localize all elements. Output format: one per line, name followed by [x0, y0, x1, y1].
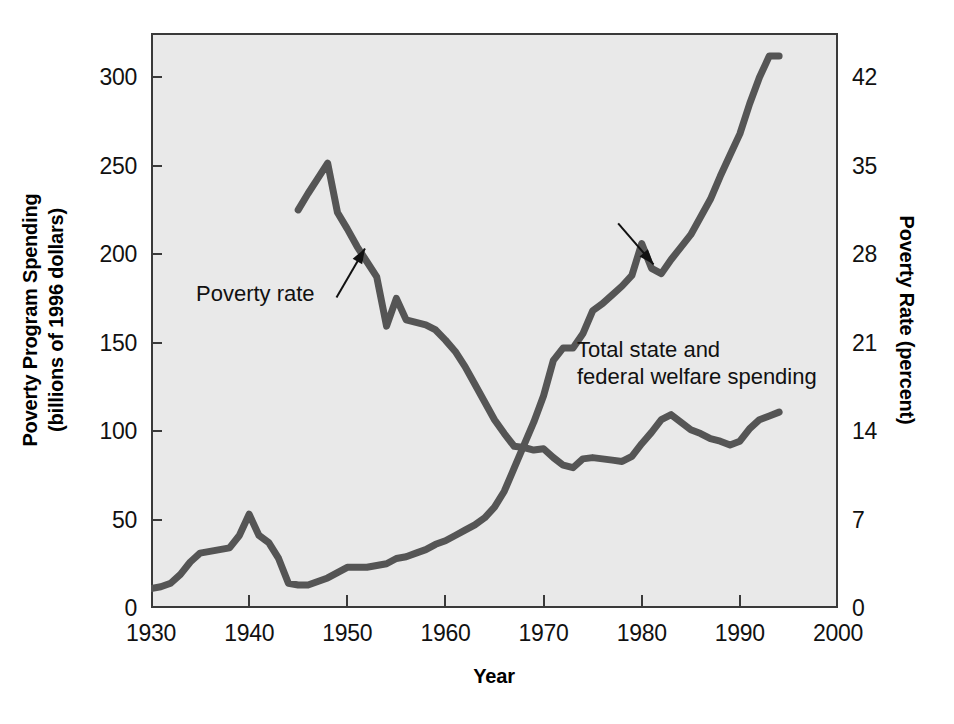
chart-plot-lines [151, 33, 838, 608]
y-left-tick-label-150: 150 [100, 329, 137, 356]
y-left-tick-label-200: 200 [100, 241, 137, 268]
y-left-tick-label-100: 100 [100, 418, 137, 445]
y-left-tick-label-50: 50 [112, 506, 137, 533]
y-left-tick-label-300: 300 [100, 64, 137, 91]
x-tick-mark-1990 [739, 595, 741, 606]
x-tick-mark-1950 [346, 595, 348, 606]
y-axis-left-title-line2: (billions of 1996 dollars) [44, 193, 70, 446]
y-left-tick-label-0: 0 [125, 595, 138, 622]
y-left-tick-mark-200 [151, 253, 162, 255]
y-left-tick-mark-300 [151, 76, 162, 78]
annotation-total-welfare-spending: Total state and federal welfare spending [577, 337, 817, 391]
x-tick-label-1960: 1960 [420, 620, 470, 647]
y-left-tick-label-250: 250 [100, 152, 137, 179]
y-right-tick-label-7: 7 [852, 506, 865, 533]
annotation-total-welfare-spending-line2: federal welfare spending [577, 364, 817, 391]
x-axis-title: Year [473, 665, 514, 688]
y-right-tick-label-0: 0 [852, 595, 865, 622]
y-left-tick-mark-150 [151, 342, 162, 344]
x-tick-mark-1940 [248, 595, 250, 606]
y-right-tick-label-28: 28 [852, 241, 877, 268]
x-tick-label-1980: 1980 [617, 620, 667, 647]
y-right-tick-label-35: 35 [852, 152, 877, 179]
chart-figure: 1930194019501960197019801990200005010015… [0, 0, 954, 724]
x-tick-label-1930: 1930 [126, 620, 176, 647]
y-right-tick-label-42: 42 [852, 64, 877, 91]
y-left-tick-mark-250 [151, 165, 162, 167]
x-tick-mark-1960 [444, 595, 446, 606]
y-right-tick-label-14: 14 [852, 418, 877, 445]
x-tick-label-1950: 1950 [322, 620, 372, 647]
x-tick-label-1990: 1990 [715, 620, 765, 647]
annotation-poverty-rate-line1: Poverty rate [196, 281, 315, 308]
series-line-welfare-spending [151, 56, 779, 589]
y-axis-left-title: Poverty Program Spending (billions of 19… [18, 193, 69, 446]
annotation-total-welfare-spending-line1: Total state and [577, 337, 817, 364]
annotation-poverty-rate: Poverty rate [196, 281, 315, 308]
x-tick-label-2000: 2000 [813, 620, 863, 647]
x-tick-label-1940: 1940 [224, 620, 274, 647]
y-axis-right-title: Poverty Rate (percent) [893, 216, 919, 425]
x-tick-label-1970: 1970 [519, 620, 569, 647]
y-left-tick-mark-100 [151, 430, 162, 432]
y-axis-left-title-line1: Poverty Program Spending [18, 193, 44, 446]
y-right-tick-label-21: 21 [852, 329, 877, 356]
y-left-tick-mark-50 [151, 519, 162, 521]
x-tick-mark-1980 [641, 595, 643, 606]
x-tick-mark-1970 [543, 595, 545, 606]
